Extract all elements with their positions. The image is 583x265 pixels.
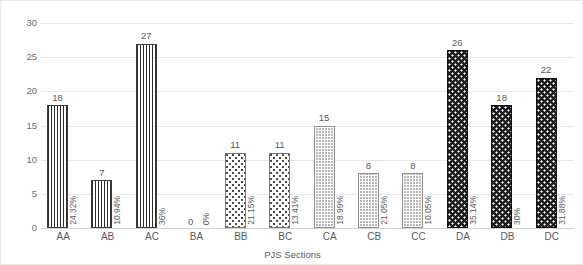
x-tick-label-ab: AB: [85, 232, 129, 242]
bar-cb[interactable]: [358, 173, 379, 228]
bar-bc[interactable]: [269, 153, 290, 228]
y-tick-label: 5: [5, 189, 37, 199]
bar-group: 1113.41%: [263, 23, 307, 228]
bar-group: 1121.15%: [219, 23, 263, 228]
plot-area: 1824.32%710.94%2736%00%1121.15%1113.41%1…: [41, 23, 574, 228]
bar-da[interactable]: [447, 50, 468, 228]
x-tick-label-cc: CC: [396, 232, 440, 242]
bar-value-label: 18: [491, 93, 512, 103]
bar-value-label: 11: [225, 140, 246, 150]
bar-percent-label: 30%: [513, 208, 522, 225]
bar-group: 1518.99%: [308, 23, 352, 228]
bar-group: 710.94%: [85, 23, 129, 228]
bar-bb[interactable]: [225, 153, 246, 228]
bar-percent-label: 21.15%: [247, 196, 256, 225]
bar-value-label: 26: [447, 38, 468, 48]
bar-percent-label: 35.14%: [469, 196, 478, 225]
bar-percent-label: 0%: [202, 213, 211, 225]
y-tick-label: 15: [5, 121, 37, 131]
bar-db[interactable]: [491, 105, 512, 228]
x-tick-label-db: DB: [485, 232, 529, 242]
bar-ac[interactable]: [136, 44, 157, 229]
x-axis: AAABACBABBBCCACBCCDADBDC: [41, 232, 574, 248]
gridline: [41, 228, 574, 229]
bar-group: 00%: [174, 23, 218, 228]
x-tick-label-bb: BB: [219, 232, 263, 242]
x-tick-label-aa: AA: [41, 232, 85, 242]
x-tick-label-ca: CA: [308, 232, 352, 242]
bar-percent-label: 18.99%: [336, 196, 345, 225]
y-tick-label: 25: [5, 52, 37, 62]
bar-value-label: 18: [47, 93, 68, 103]
bar-percent-label: 24.32%: [69, 196, 78, 225]
bar-percent-label: 31.88%: [558, 196, 567, 225]
y-axis: 051015202530: [1, 23, 37, 228]
bar-group: 810.05%: [396, 23, 440, 228]
x-tick-label-dc: DC: [530, 232, 574, 242]
bar-value-label: 0: [180, 217, 201, 227]
bar-value-label: 8: [358, 161, 379, 171]
bar-aa[interactable]: [47, 105, 68, 228]
x-tick-label-ac: AC: [130, 232, 174, 242]
bar-value-label: 15: [314, 113, 335, 123]
bar-value-label: 7: [91, 168, 112, 178]
x-tick-label-ba: BA: [174, 232, 218, 242]
bar-cc[interactable]: [402, 173, 423, 228]
bar-group: 2231.88%: [530, 23, 574, 228]
bar-value-label: 8: [402, 161, 423, 171]
bar-group: 821.05%: [352, 23, 396, 228]
x-axis-title: PJS Sections: [1, 250, 583, 260]
y-tick-label: 30: [5, 18, 37, 28]
bar-dc[interactable]: [536, 78, 557, 228]
bar-percent-label: 10.94%: [113, 196, 122, 225]
bar-value-label: 11: [269, 140, 290, 150]
x-tick-label-da: DA: [441, 232, 485, 242]
bar-group: 1824.32%: [41, 23, 85, 228]
bar-value-label: 22: [536, 65, 557, 75]
y-tick-label: 0: [5, 223, 37, 233]
bar-group: 1830%: [485, 23, 529, 228]
y-tick-label: 20: [5, 87, 37, 97]
bar-percent-label: 21.05%: [380, 196, 389, 225]
x-tick-label-bc: BC: [263, 232, 307, 242]
bar-percent-label: 13.41%: [291, 196, 300, 225]
bar-group: 2635.14%: [441, 23, 485, 228]
y-tick-label: 10: [5, 155, 37, 165]
bar-percent-label: 36%: [158, 208, 167, 225]
bar-ca[interactable]: [314, 126, 335, 229]
x-tick-label-cb: CB: [352, 232, 396, 242]
bar-percent-label: 10.05%: [424, 196, 433, 225]
bar-group: 2736%: [130, 23, 174, 228]
bar-chart: 051015202530 1824.32%710.94%2736%00%1121…: [0, 0, 583, 265]
bar-ab[interactable]: [91, 180, 112, 228]
bar-value-label: 27: [136, 31, 157, 41]
